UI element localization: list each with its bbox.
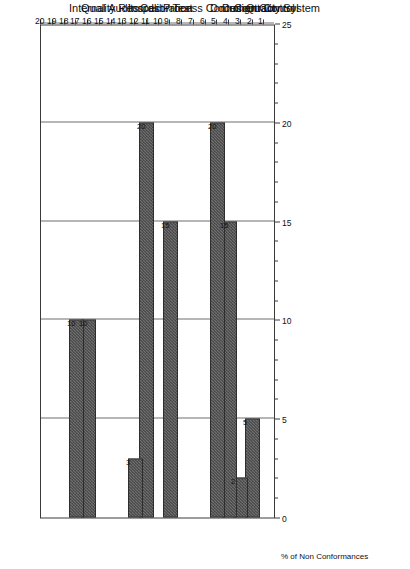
value-axis-minor-tick [275,438,278,439]
bar [128,458,143,517]
value-axis-major-tick [275,418,280,419]
bar-chart-figure: % of Non Conformances ISO 9001 Clauses 5… [0,0,410,569]
value-axis-minor-tick [275,63,278,64]
category-axis-tick-label: 10 [153,16,162,25]
category-axis-tick [216,19,217,24]
value-axis-minor-tick [275,240,278,241]
category-axis-tick [263,19,264,24]
value-axis-minor-tick [275,43,278,44]
category-axis-tick-label: 7 [188,16,193,25]
bar [163,221,178,517]
bar-value-label: 20 [137,122,145,130]
value-axis-major-tick [275,517,280,518]
category-axis-tick-label: 8 [176,16,181,25]
value-axis-tick-label: 0 [282,514,287,523]
category-axis-tick-label: 20 [35,16,44,25]
value-axis-minor-tick [275,359,278,360]
value-axis-major-tick [275,221,280,222]
value-axis-minor-tick [275,379,278,380]
category-axis-tick-label: 15 [94,16,103,25]
bar-value-label: 2 [231,477,235,485]
value-axis-tick-label: 20 [282,119,291,128]
plot-area [40,24,275,518]
value-axis-tick-label: 5 [282,415,287,424]
value-axis-title: % of Non Conformances [281,552,368,560]
category-axis-tick-label: 11 [141,16,150,25]
chart-page: % of Non Conformances ISO 9001 Clauses 5… [0,0,410,569]
bar-value-label: 10 [67,319,75,327]
value-axis-minor-tick [275,201,278,202]
category-axis-tick [181,19,182,24]
value-axis-minor-tick [275,280,278,281]
value-axis-minor-tick [275,142,278,143]
category-axis-tick-label: 16 [82,16,91,25]
category-axis-tick-label: 3 [235,16,240,25]
category-axis-tick-label: 12 [129,16,138,25]
category-axis-tick-label: 9 [164,16,169,25]
value-axis-major-tick [275,23,280,24]
value-axis-minor-tick [275,497,278,498]
value-axis-minor-tick [275,82,278,83]
bar [69,319,84,517]
bar-value-label: 3 [126,458,130,466]
category-axis-tick [228,19,229,24]
category-axis-tick-label: 2 [247,16,252,25]
category-axis-tick-label: 19 [47,16,56,25]
category-axis-tick-label: 14 [106,16,115,25]
value-axis-tick-label: 10 [282,316,291,325]
category-axis-tick-label: 18 [59,16,68,25]
value-axis-tick-label: 15 [282,218,291,227]
value-axis-minor-tick [275,398,278,399]
category-axis-tick-label: 17 [70,16,79,25]
gridline [41,220,274,221]
category-axis-tick-label: 1 [258,16,263,25]
value-axis-major-tick [275,319,280,320]
value-axis-minor-tick [275,458,278,459]
value-axis-minor-tick [275,477,278,478]
value-axis-minor-tick [275,161,278,162]
bar-value-label: 15 [161,221,169,229]
value-axis-major-tick [275,122,280,123]
value-axis-minor-tick [275,181,278,182]
category-axis-tick-label: 13 [117,16,126,25]
bar-value-label: 15 [220,221,228,229]
value-axis-tick-label: 25 [282,20,291,29]
gridline [41,121,274,122]
category-axis-tick [169,19,170,24]
category-axis-tick-label: 5 [211,16,216,25]
value-axis-minor-tick [275,102,278,103]
bar-value-label: 5 [243,418,247,426]
category-axis-tick-label: 6 [200,16,205,25]
value-axis-minor-tick [275,300,278,301]
bar-value-label: 10 [79,319,87,327]
bar-value-label: 20 [208,122,216,130]
value-axis-minor-tick [275,339,278,340]
category-name-label: Internal Audits [69,2,139,13]
value-axis-minor-tick [275,260,278,261]
category-axis-tick-label: 4 [223,16,228,25]
bar [210,122,225,517]
rotated-figure-wrapper: % of Non Conformances ISO 9001 Clauses 5… [0,0,410,569]
